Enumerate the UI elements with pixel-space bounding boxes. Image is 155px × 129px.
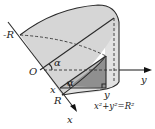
label-origin: O: [29, 66, 37, 77]
label-x-axis: x: [67, 114, 73, 125]
label-equation: x²+y²=R²: [94, 101, 135, 111]
label-x-point: x: [50, 84, 56, 95]
wedge-solid-diagram: -R O α α x R y x y x²+y²=R²: [0, 0, 155, 129]
y-axis-arrow-icon: [144, 67, 152, 73]
label-y-point: y: [103, 89, 110, 100]
label-alpha-top: α: [54, 57, 61, 68]
label-r: R: [53, 95, 62, 106]
x-axis-arrow-icon: [70, 104, 77, 112]
label-neg-r: -R: [3, 29, 14, 40]
label-y-axis: y: [140, 74, 147, 85]
label-alpha-bottom: α: [67, 77, 74, 88]
